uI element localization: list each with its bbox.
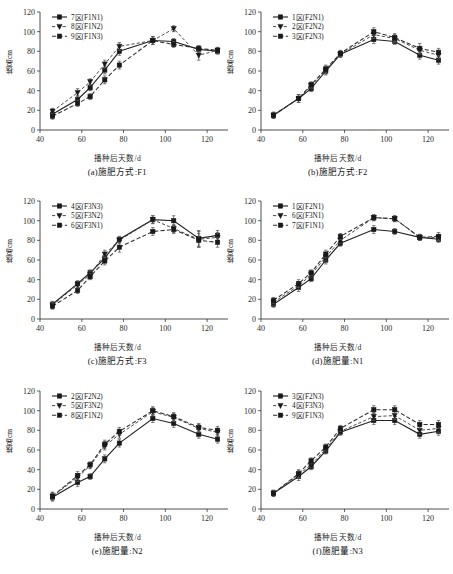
plot-area-b: 株高/cm 0204060801001204060801001201区(F2N1… <box>223 4 444 156</box>
data-marker <box>271 298 275 302</box>
y-tick-label: 0 <box>31 315 35 324</box>
panel-caption-e: (e)施肥量:N2 <box>2 544 223 556</box>
data-marker <box>75 473 79 477</box>
data-marker <box>338 51 342 55</box>
panel-e: 株高/cm 0204060801001204060801001202区(F2N2… <box>2 383 223 572</box>
y-tick-label: 40 <box>27 465 35 474</box>
data-marker <box>75 90 80 95</box>
data-marker <box>197 238 201 242</box>
x-tick-label: 120 <box>422 135 434 144</box>
series-0 <box>271 416 440 496</box>
y-tick-label: 100 <box>244 217 256 226</box>
data-marker <box>392 413 397 418</box>
chart-f: 0204060801001204060801001203区(F2N3)4区(F3… <box>235 383 453 535</box>
x-tick-label: 60 <box>78 324 86 333</box>
y-tick-label: 20 <box>27 485 35 494</box>
y-tick-label: 60 <box>248 256 256 265</box>
y-tick-label: 80 <box>27 47 35 56</box>
x-tick-label: 40 <box>257 324 265 333</box>
chart-c: 0204060801001204060801001204区(F3N3)5区(F3… <box>14 193 236 345</box>
y-tick-label: 40 <box>248 87 256 96</box>
legend-label: 4区(F3N3) <box>71 203 103 211</box>
data-marker <box>371 29 375 33</box>
series-2 <box>50 37 219 120</box>
data-marker <box>151 416 155 420</box>
data-marker <box>197 432 201 436</box>
plot-area-a: 株高/cm 0204060801001204060801001207区(F1N1… <box>2 4 223 156</box>
series-line <box>273 35 438 116</box>
y-tick-label: 80 <box>248 47 256 56</box>
legend-entry-0: 2区(F2N2) <box>52 392 103 400</box>
x-tick-label: 60 <box>298 324 306 333</box>
chart-e: 0204060801001204060801001202区(F2N2)5区(F3… <box>14 383 236 535</box>
x-tick-label: 120 <box>201 324 213 333</box>
legend-label: 9区(F1N3) <box>292 412 324 420</box>
legend-label: 8区(F1N2) <box>71 23 103 31</box>
data-marker <box>50 114 54 118</box>
series-0 <box>271 226 440 308</box>
y-tick-label: 0 <box>252 126 256 135</box>
data-marker <box>308 83 312 87</box>
plot-area-e: 株高/cm 0204060801001204060801001202区(F2N2… <box>2 383 223 535</box>
y-tick-label: 40 <box>248 465 256 474</box>
plot-area-c: 株高/cm 0204060801001204060801001204区(F3N3… <box>2 193 223 345</box>
data-marker <box>338 426 342 430</box>
x-tick-label: 120 <box>201 514 213 523</box>
legend-entry-1: 8区(F1N2) <box>52 23 103 31</box>
data-marker <box>323 252 327 256</box>
data-marker <box>171 219 175 223</box>
panel-f: 株高/cm 0204060801001204060801001203区(F2N3… <box>223 383 444 572</box>
data-marker <box>151 408 155 412</box>
y-tick-label: 20 <box>27 296 35 305</box>
series-0 <box>50 414 219 501</box>
legend-label: 2区(F2N2) <box>292 23 324 31</box>
y-tick-label: 120 <box>244 387 256 396</box>
y-tick-label: 20 <box>248 296 256 305</box>
data-marker <box>196 53 201 58</box>
chart-d: 0204060801001204060801001201区(F2N1)6区(F3… <box>235 193 453 345</box>
data-marker <box>57 204 61 208</box>
y-tick-label: 60 <box>248 67 256 76</box>
data-marker <box>151 38 155 42</box>
legend-label: 6区(F3N1) <box>71 222 103 230</box>
legend-label: 5区(F3N2) <box>71 402 103 410</box>
y-tick-label: 20 <box>248 485 256 494</box>
data-marker <box>338 235 342 239</box>
y-tick-label: 120 <box>244 197 256 206</box>
data-marker <box>371 407 375 411</box>
y-tick-label: 120 <box>23 8 35 17</box>
data-marker <box>117 245 121 249</box>
x-tick-label: 100 <box>380 514 392 523</box>
data-marker <box>323 445 327 449</box>
y-tick-label: 120 <box>23 387 35 396</box>
data-marker <box>88 94 92 98</box>
data-marker <box>392 230 396 234</box>
y-tick-label: 100 <box>23 28 35 37</box>
legend-entry-0: 4区(F3N3) <box>52 203 103 211</box>
legend-entry-2: 7区(F1N1) <box>273 222 324 230</box>
data-marker <box>75 101 79 105</box>
y-tick-label: 100 <box>244 28 256 37</box>
data-marker <box>392 35 396 39</box>
data-marker <box>278 34 282 38</box>
y-tick-label: 120 <box>244 8 256 17</box>
data-marker <box>117 63 121 67</box>
plot-area-f: 株高/cm 0204060801001204060801001203区(F2N3… <box>223 383 444 535</box>
panel-caption-b: (b)施肥方式:F2 <box>223 165 444 177</box>
y-tick-label: 20 <box>27 106 35 115</box>
x-tick-label: 100 <box>159 324 171 333</box>
legend-label: 8区(F1N2) <box>71 412 103 420</box>
data-marker <box>171 421 175 425</box>
y-tick-label: 80 <box>248 237 256 246</box>
legend-label: 3区(F2N3) <box>292 33 324 41</box>
x-tick-label: 80 <box>340 135 348 144</box>
series-line <box>273 230 438 305</box>
legend-label: 4区(F3N3) <box>292 402 324 410</box>
legend-label: 9区(F1N3) <box>71 33 103 41</box>
data-marker <box>197 425 201 429</box>
data-marker <box>103 456 107 460</box>
y-tick-label: 80 <box>248 426 256 435</box>
x-tick-label: 60 <box>78 514 86 523</box>
panel-a: 株高/cm 0204060801001204060801001207区(F1N1… <box>2 4 223 193</box>
series-2 <box>271 28 440 118</box>
